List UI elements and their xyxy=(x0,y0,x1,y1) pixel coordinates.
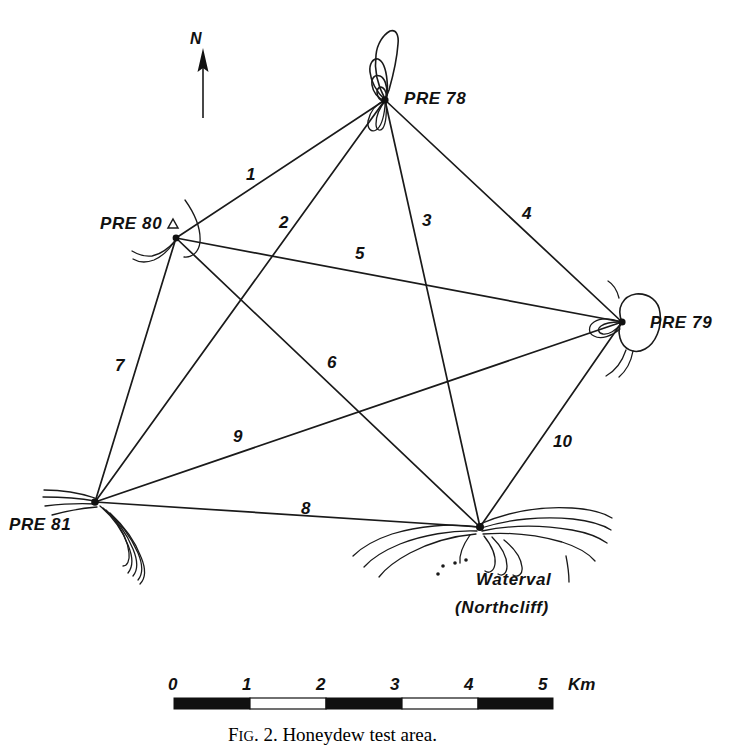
line-label-9: 9 xyxy=(233,427,243,446)
map-canvas: N xyxy=(0,0,734,754)
scale-tick-4: 4 xyxy=(463,675,474,694)
line-label-4: 4 xyxy=(521,204,532,223)
north-arrow-icon xyxy=(198,48,209,118)
baseline-7 xyxy=(95,238,176,502)
baseline-5 xyxy=(176,238,622,322)
scale-tick-3: 3 xyxy=(390,675,400,694)
caption-rest: . 2. Honeydew test area. xyxy=(254,724,437,745)
node-pre79[interactable] xyxy=(618,318,625,325)
scale-segment-2-3 xyxy=(326,698,402,709)
node-pre78[interactable] xyxy=(381,96,388,103)
station-label-pre81: PRE 81 xyxy=(9,515,71,534)
scale-tick-5: 5 xyxy=(538,675,548,694)
station-nodes xyxy=(91,96,625,531)
caption-prefix: F xyxy=(228,724,239,745)
scale-segment-4-5 xyxy=(478,698,553,709)
triangle-marker-pre80 xyxy=(168,219,178,228)
line-label-2: 2 xyxy=(278,213,289,232)
scale-segment-1-2 xyxy=(250,698,326,709)
scale-bar: 0 1 2 3 4 5 Km xyxy=(168,675,595,709)
line-label-8: 8 xyxy=(301,499,311,518)
line-label-10: 10 xyxy=(553,432,572,451)
node-pre80[interactable] xyxy=(173,235,180,242)
station-label-pre78: PRE 78 xyxy=(404,89,466,108)
scale-unit-label: Km xyxy=(568,675,595,694)
figure-caption: FIG. 2. Honeydew test area. xyxy=(228,724,437,745)
line-label-3: 3 xyxy=(422,211,432,230)
baseline-9 xyxy=(95,322,622,502)
scale-tick-2: 2 xyxy=(315,675,326,694)
scale-segment-0-1 xyxy=(174,698,250,709)
baseline-4 xyxy=(385,100,622,322)
scale-segment-3-4 xyxy=(402,698,478,709)
network-lines xyxy=(95,100,622,527)
caption-line: FIG. 2. Honeydew test area. xyxy=(228,724,437,745)
contour-group-pre78 xyxy=(368,31,398,131)
line-label-7: 7 xyxy=(115,356,126,375)
station-sublabel-waterval: (Northcliff) xyxy=(455,598,549,617)
station-label-waterval: Waterval xyxy=(476,570,552,589)
scale-tick-1: 1 xyxy=(242,675,251,694)
north-label: N xyxy=(190,30,202,47)
baseline-8 xyxy=(95,502,480,527)
station-label-pre79: PRE 79 xyxy=(650,313,712,332)
line-label-5: 5 xyxy=(355,244,365,263)
node-pre81[interactable] xyxy=(91,498,99,506)
line-label-1: 1 xyxy=(246,165,255,184)
station-label-pre80: PRE 80 xyxy=(100,214,162,233)
baseline-6 xyxy=(176,238,480,527)
baseline-10 xyxy=(480,322,622,527)
node-waterval[interactable] xyxy=(476,523,484,531)
figure-honeydew-test-area: N xyxy=(0,0,734,754)
scale-tick-0: 0 xyxy=(168,675,178,694)
line-label-6: 6 xyxy=(327,353,337,372)
baseline-3 xyxy=(385,100,480,527)
caption-smallcaps: IG xyxy=(239,728,255,744)
